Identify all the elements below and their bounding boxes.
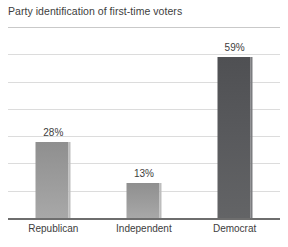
chart-title: Party identification of first-time voter… <box>8 5 182 18</box>
bar-group-independent: 13% <box>99 27 190 218</box>
category-label-republican: Republican <box>8 222 99 236</box>
category-label-democrat: Democrat <box>189 222 280 236</box>
bar-value-democrat: 59% <box>225 42 245 54</box>
bar-independent[interactable] <box>126 183 161 219</box>
bar-democrat[interactable] <box>217 57 252 218</box>
bars-layer: 28% 13% 59% <box>8 27 280 218</box>
x-axis-labels: Republican Independent Democrat <box>8 222 280 244</box>
bar-group-democrat: 59% <box>189 27 280 218</box>
bar-republican[interactable] <box>36 142 71 218</box>
bar-value-independent: 13% <box>134 168 154 180</box>
bar-value-republican: 28% <box>43 127 63 139</box>
bar-group-republican: 28% <box>8 27 99 218</box>
category-label-independent: Independent <box>99 222 190 236</box>
bar-chart: Party identification of first-time voter… <box>0 0 288 247</box>
x-axis-line <box>8 218 280 220</box>
